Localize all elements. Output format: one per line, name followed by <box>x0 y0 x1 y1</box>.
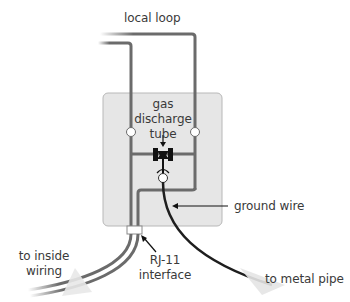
rj11-pointer-arrow <box>141 235 156 252</box>
ground-terminal <box>159 174 168 183</box>
diagram-canvas: local loop gas discharge tube ground wir… <box>0 0 350 302</box>
rj11-interface <box>127 226 142 234</box>
rj11-label-line1: RJ-11 <box>135 253 195 268</box>
inside-wiring-label: to inside wiring <box>14 249 74 279</box>
inside-wiring-label-line1: to inside <box>14 249 74 264</box>
local-loop-label: local loop <box>124 11 180 25</box>
metal-pipe-label: to metal pipe <box>265 272 344 286</box>
rj11-label-line2: interface <box>135 268 195 283</box>
gas-tube-label-line3: tube <box>133 127 193 142</box>
gas-tube-label-line2: discharge <box>133 112 193 127</box>
rj11-label: RJ-11 interface <box>135 253 195 283</box>
gas-discharge-tube-label: gas discharge tube <box>133 97 193 142</box>
inside-wiring-label-line2: wiring <box>14 264 74 279</box>
gas-tube-label-line1: gas <box>133 97 193 112</box>
ground-wire-label: ground wire <box>234 199 304 213</box>
